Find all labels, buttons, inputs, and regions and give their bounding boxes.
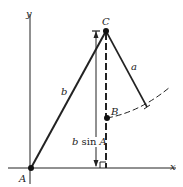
- side-a: [106, 31, 147, 107]
- x-axis-label: x: [170, 162, 176, 172]
- height-label: b sin A: [72, 137, 107, 147]
- side-a-label: a: [131, 62, 137, 72]
- point-c-label: C: [102, 17, 110, 27]
- point-b: [104, 115, 110, 121]
- triangle-diagram: [0, 0, 183, 187]
- height-label-var: b: [72, 136, 78, 147]
- point-a-label: A: [19, 174, 26, 184]
- point-b-label: B: [111, 107, 118, 117]
- height-label-angle: A: [100, 136, 107, 147]
- arrow-down-icon: [94, 160, 99, 167]
- point-a: [28, 165, 34, 171]
- height-label-fn: sin: [82, 136, 97, 147]
- point-c: [103, 28, 109, 34]
- side-b-label: b: [61, 87, 67, 97]
- y-axis-label: y: [26, 9, 32, 19]
- arrow-up-icon: [94, 31, 99, 38]
- side-b: [31, 31, 106, 168]
